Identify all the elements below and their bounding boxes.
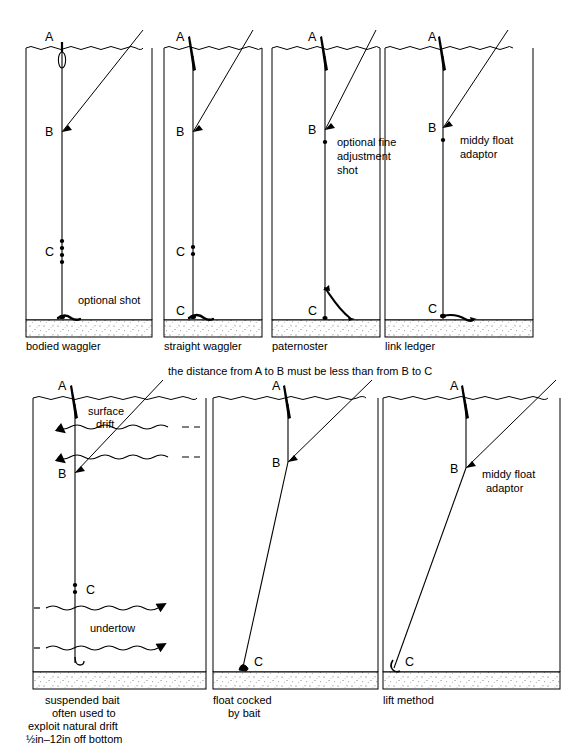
panel-caption-line-1: float cocked [213, 694, 272, 706]
water-surface-line [26, 47, 143, 50]
point-label-a: A [308, 30, 317, 44]
point-label-c: C [254, 655, 263, 669]
point-label-b: B [308, 123, 316, 137]
point-label-b: B [272, 456, 280, 470]
panel-caption-line-3: exploit natural drift [28, 720, 118, 732]
line-b-to-c [394, 468, 466, 668]
surface-drift-label-1: surface [88, 405, 124, 417]
panel-caption-bodied-waggler: bodied waggler [26, 340, 101, 352]
line-junction-b [466, 461, 476, 468]
panel-caption-straight-waggler: straight waggler [164, 340, 242, 352]
panel-caption-paternoster: paternoster [272, 340, 328, 352]
shot [60, 239, 64, 243]
straight-waggler-float [188, 36, 196, 71]
panel-caption-line-4: ½in–12in off bottom [26, 733, 122, 745]
bottom-shot [59, 315, 65, 319]
surface-drift-label-2: drift [96, 418, 114, 430]
annotation-line-1: optional fine [337, 136, 396, 148]
water-surface-line [164, 47, 262, 50]
panel-caption-line-1: suspended bait [45, 694, 120, 706]
middle-caption: the distance from A to B must be less th… [168, 365, 432, 377]
point-label-a: A [272, 379, 281, 393]
rod-line-to-b [62, 30, 143, 132]
panel-lift-method: A B C middy float adaptor lift method [383, 379, 560, 706]
point-label-a: A [176, 30, 185, 44]
straight-waggler-float [461, 385, 469, 419]
annotation-line-2: adjustment [337, 150, 391, 162]
shot [60, 253, 64, 257]
point-label-c: C [428, 302, 437, 316]
point-label-c: C [308, 304, 317, 318]
panel-caption-line-2: often used to [52, 707, 116, 719]
shot [441, 138, 445, 142]
rod-line-to-b [288, 380, 372, 462]
shot [191, 245, 195, 249]
river-bed [33, 672, 206, 689]
shot [60, 260, 64, 264]
rod-line-to-b [193, 30, 253, 132]
straight-waggler-float [283, 385, 291, 419]
water-surface-line [213, 397, 366, 400]
point-label-a: A [450, 379, 459, 393]
undertow-arrow [46, 606, 158, 610]
point-label-c: C [405, 655, 414, 669]
panel-bodied-waggler: A B C optional shot bodied waggler [26, 30, 152, 352]
panel-straight-waggler: A B C C straight waggler [164, 30, 262, 352]
point-label-a: A [45, 30, 54, 44]
point-label-c: C [45, 245, 54, 259]
point-label-b: B [428, 121, 436, 135]
shot [60, 246, 64, 250]
straight-waggler-float [438, 36, 446, 71]
straight-waggler-float [320, 36, 328, 71]
undertow-arrow [46, 646, 158, 650]
ledger-stop-shot [440, 314, 446, 318]
bait-on-bottom [239, 665, 248, 671]
annotation-line-1: middy float [482, 468, 535, 480]
river-bed [383, 672, 560, 689]
annotation-line-3: shot [337, 164, 358, 176]
annotation-line-2: adaptor [486, 482, 524, 494]
water-surface-line [385, 47, 513, 50]
rod-line-to-b [443, 30, 508, 128]
fishing-rig-diagram: A B C optional shot bodied waggler A B C… [0, 0, 583, 755]
rod-line-to-b [466, 380, 556, 468]
paternoster-dropper [325, 288, 350, 318]
line-junction-b [288, 455, 298, 462]
panel-caption-link-ledger: link ledger [385, 340, 435, 352]
annotation-line-1: middy float [460, 134, 513, 146]
shot [73, 583, 77, 587]
panel-float-cocked-by-bait: A B C float cocked by bait [213, 379, 378, 719]
water-surface-line [33, 397, 197, 400]
water-surface-line [272, 47, 380, 50]
shot [191, 252, 195, 256]
annotation-line-2: adaptor [460, 148, 498, 160]
point-label-b: B [176, 125, 184, 139]
river-bed [26, 320, 152, 337]
panel-caption-line-2: by bait [228, 707, 260, 719]
shot [323, 140, 327, 144]
rod-line-to-b [325, 30, 376, 130]
point-label-a: A [58, 379, 67, 393]
point-label-b: B [450, 462, 458, 476]
panel-caption-lift-method: lift method [383, 694, 434, 706]
straight-waggler-float [70, 385, 78, 419]
shot [73, 590, 77, 594]
panel-paternoster: A B C optional fine adjustment shot pate… [272, 30, 396, 352]
point-label-c: C [86, 583, 95, 597]
line-b-to-c [243, 462, 288, 667]
river-bed [272, 320, 380, 337]
panel-link-ledger: A B C middy float adaptor link ledger [385, 30, 533, 352]
point-label-b: B [58, 467, 66, 481]
lift-method-shot [391, 660, 400, 672]
river-bed [385, 320, 533, 337]
panel-suspended-bait: A B C surface drift undertow suspended b… [26, 379, 206, 745]
annotation-optional-shot: optional shot [78, 294, 140, 306]
point-label-c-lower: C [176, 304, 185, 318]
point-label-c-upper: C [176, 245, 185, 259]
undertow-label: undertow [90, 622, 135, 634]
line-junction-b [443, 121, 453, 128]
suspended-hook [75, 657, 84, 665]
river-bed [164, 320, 262, 337]
point-label-b: B [45, 125, 53, 139]
bottom-shot [190, 315, 196, 319]
